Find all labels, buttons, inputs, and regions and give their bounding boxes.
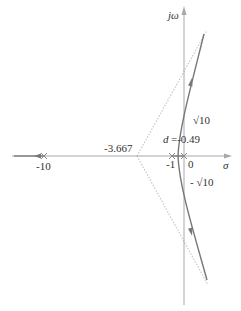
pole-label-0: 0 <box>188 158 194 170</box>
locus-arrow-upper-icon <box>188 78 194 87</box>
locus-arrow-left-icon <box>34 154 41 159</box>
imag-crossing-negative-label: - √10 <box>190 176 214 188</box>
pole-label-minus-10: -10 <box>36 160 51 172</box>
imag-axis-arrow-icon <box>182 6 187 15</box>
imag-crossing-positive-label: √10 <box>193 114 211 126</box>
real-axis-label: σ <box>223 159 229 171</box>
imag-axis-label: jω <box>166 9 179 21</box>
locus-lower-branch <box>178 156 207 280</box>
asymptote-center-label: -3.667 <box>104 142 133 154</box>
breakaway-d-label: d <box>163 133 169 145</box>
breakaway-value-label: =-0.49 <box>171 133 201 145</box>
real-axis-arrow-icon <box>224 154 232 159</box>
root-locus-diagram: jω σ -10 -1 0 -3.667 d =-0.49 √10 - √10 <box>0 0 241 311</box>
pole-label-minus-1: -1 <box>166 158 175 170</box>
